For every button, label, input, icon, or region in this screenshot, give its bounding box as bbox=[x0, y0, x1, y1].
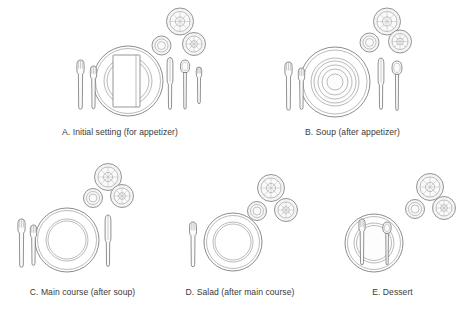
water-tumbler-icon bbox=[84, 189, 103, 208]
dinner-knife bbox=[378, 58, 384, 109]
dinner-fork bbox=[285, 62, 292, 110]
dinner-fork bbox=[77, 60, 84, 109]
soup-spoon bbox=[180, 60, 189, 109]
cocktail-fork bbox=[196, 67, 201, 104]
dinner-knife bbox=[167, 58, 173, 110]
glassware-cluster-a bbox=[152, 8, 206, 56]
soup-spoon bbox=[392, 61, 402, 111]
wine-glass-icon bbox=[258, 175, 285, 202]
dinner-knife bbox=[105, 215, 111, 266]
wine-glass-icon bbox=[417, 174, 444, 201]
setting-a-illustration bbox=[0, 0, 240, 125]
setting-d-salad: D. Salad (after main course) bbox=[160, 155, 320, 309]
second-glass-icon bbox=[183, 33, 206, 56]
caption-setting-e: E. Dessert bbox=[320, 287, 465, 297]
setting-d-illustration bbox=[160, 155, 320, 285]
dinner-plate bbox=[35, 208, 99, 272]
folded-napkin bbox=[113, 55, 140, 107]
dessert-plate bbox=[345, 214, 403, 272]
setting-c-main-course: C. Main course (after soup) bbox=[0, 155, 165, 309]
second-glass-icon bbox=[389, 30, 412, 53]
glassware-cluster-d bbox=[248, 175, 298, 222]
setting-c-illustration bbox=[0, 155, 165, 285]
water-tumbler-icon bbox=[406, 200, 425, 219]
second-glass-icon bbox=[433, 197, 456, 220]
setting-e-illustration bbox=[320, 155, 465, 285]
glassware-cluster-e bbox=[406, 174, 456, 220]
caption-setting-a: A. Initial setting (for appetizer) bbox=[0, 127, 240, 137]
soup-bowl bbox=[311, 58, 359, 106]
second-glass-icon bbox=[111, 185, 134, 208]
glassware-cluster-b bbox=[360, 8, 412, 53]
salad-fork bbox=[190, 222, 197, 267]
glassware-cluster-c bbox=[84, 164, 134, 208]
dinner-fork bbox=[18, 219, 25, 267]
caption-setting-d: D. Salad (after main course) bbox=[160, 287, 320, 297]
caption-setting-b: B. Soup (after appetizer) bbox=[240, 127, 465, 137]
setting-a-initial: A. Initial setting (for appetizer) bbox=[0, 0, 240, 145]
setting-e-dessert: E. Dessert bbox=[320, 155, 465, 309]
salad-plate bbox=[204, 213, 262, 271]
wine-glass-icon bbox=[167, 8, 194, 35]
setting-b-illustration bbox=[240, 0, 465, 125]
water-tumbler-icon bbox=[152, 36, 171, 55]
setting-b-soup: B. Soup (after appetizer) bbox=[240, 0, 465, 145]
water-tumbler-icon bbox=[248, 202, 267, 221]
second-glass-icon bbox=[275, 199, 298, 222]
table-setting-diagram: A. Initial setting (for appetizer) bbox=[0, 0, 465, 309]
caption-setting-c: C. Main course (after soup) bbox=[0, 287, 165, 297]
water-tumbler-icon bbox=[360, 33, 379, 52]
